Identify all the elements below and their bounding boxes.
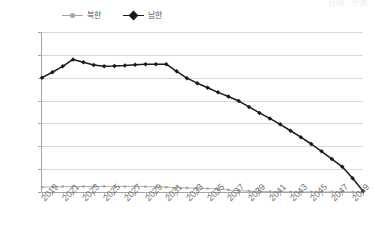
data-point-marker — [226, 94, 231, 99]
data-point-marker — [123, 185, 126, 188]
x-axis-labels: 2019202120232025202720292031203320352037… — [41, 196, 363, 238]
data-point-marker — [102, 64, 107, 69]
data-point-marker — [61, 185, 64, 188]
legend-item-series-south[interactable]: 남한 — [123, 8, 162, 22]
unit-annotation: (단위 : 만명) — [329, 0, 368, 7]
chart-legend: 북한남한 — [62, 8, 162, 22]
data-point-marker — [112, 64, 117, 69]
series-line — [42, 59, 363, 191]
circle-marker-icon — [62, 11, 83, 20]
data-point-marker — [144, 185, 147, 188]
data-point-marker — [41, 186, 44, 189]
data-point-marker — [123, 63, 128, 68]
diamond-marker-icon — [123, 11, 144, 20]
plot-area: 350.0300.0250.0200.0150.0100.050.00 — [41, 32, 363, 193]
data-point-marker — [186, 187, 189, 190]
data-point-marker — [81, 60, 86, 65]
series-layer — [41, 32, 363, 193]
data-point-marker — [92, 63, 97, 68]
legend-item-series-north[interactable]: 북한 — [62, 8, 101, 22]
data-point-marker — [216, 90, 221, 95]
series-south — [40, 57, 366, 193]
data-point-marker — [82, 185, 85, 188]
data-point-marker — [133, 62, 138, 67]
data-point-marker — [143, 62, 148, 67]
data-point-marker — [205, 86, 210, 91]
legend-label: 북한 — [87, 11, 101, 20]
data-point-marker — [165, 186, 168, 189]
data-point-marker — [154, 62, 159, 67]
chart-container: (단위 : 만명) 북한남한 350.0300.0250.0200.0150.0… — [0, 0, 374, 240]
data-point-marker — [206, 187, 209, 190]
data-point-marker — [103, 185, 106, 188]
legend-label: 남한 — [148, 11, 162, 20]
